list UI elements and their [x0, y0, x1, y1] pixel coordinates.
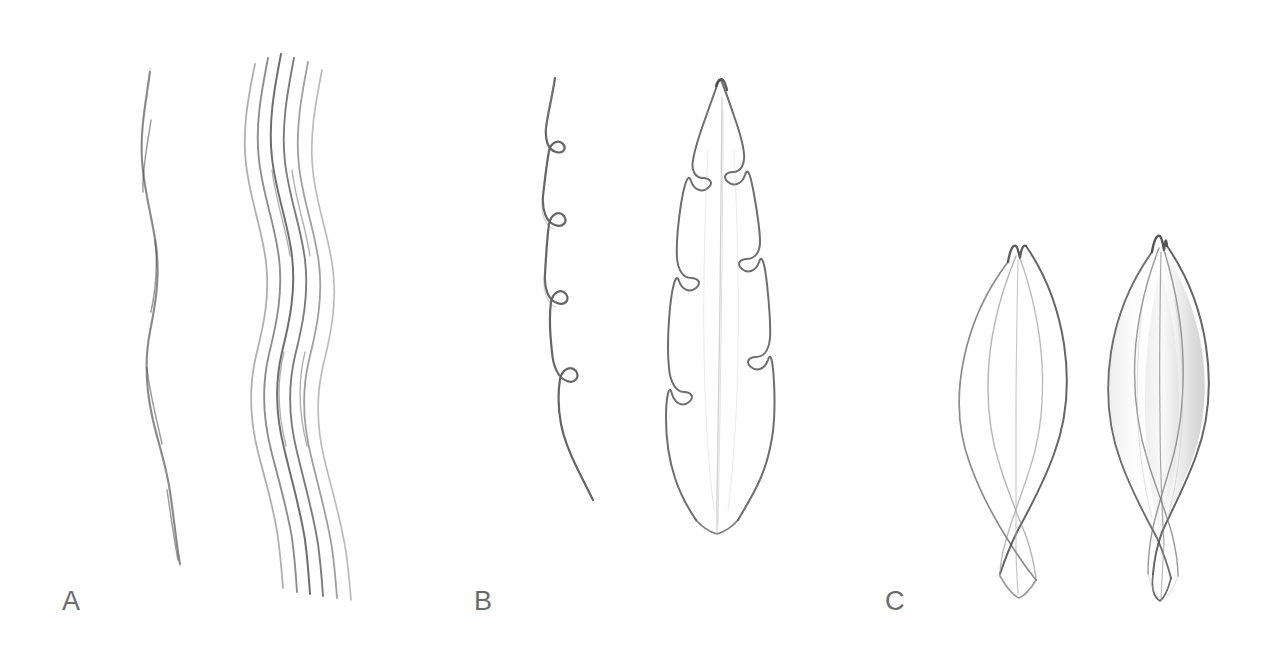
- panel-a: [0, 0, 430, 667]
- panel-b: [430, 0, 830, 667]
- panel-label-c: C: [885, 588, 905, 615]
- lanceolate-leaf: [666, 79, 775, 534]
- figure-plate: A B C: [0, 0, 1283, 667]
- single-wavy-line: [142, 68, 180, 566]
- panel-a-artwork: [0, 0, 430, 667]
- serrated-margin-detail: [542, 78, 593, 500]
- panel-c-artwork: [830, 0, 1283, 667]
- panel-b-artwork: [430, 0, 830, 667]
- panel-label-b: B: [474, 588, 493, 615]
- panel-c: [830, 0, 1283, 667]
- panel-label-a: A: [62, 588, 81, 615]
- bud-shaded: [1108, 236, 1209, 601]
- bud-outline: [959, 246, 1067, 598]
- wavy-line-bundle: [245, 54, 351, 600]
